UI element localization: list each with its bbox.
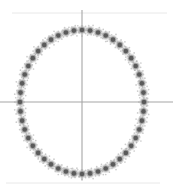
data-point [135, 115, 148, 127]
data-point [15, 78, 28, 90]
data-point [15, 115, 28, 126]
data-point [137, 87, 150, 99]
scatter-plot-figure [0, 0, 173, 190]
plot-canvas [0, 0, 173, 190]
data-point [137, 105, 150, 116]
data-point [135, 77, 148, 88]
